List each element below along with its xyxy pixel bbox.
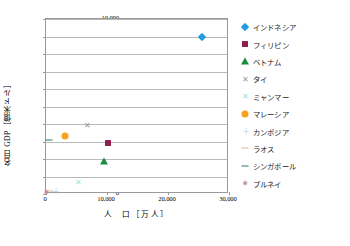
legend-label: シンガポール (253, 160, 296, 171)
y-tickmark (43, 142, 46, 143)
legend-item[interactable]: ラオス (240, 140, 348, 157)
data-point-marker (241, 58, 249, 65)
legend-item[interactable]: ＋カンボジア (240, 122, 348, 139)
legend-marker: ✷ (240, 178, 250, 188)
data-point-marker (242, 41, 248, 47)
x-tick-label: 20,000 (158, 196, 176, 203)
data-point-cross: ✕ (75, 179, 82, 186)
legend-marker: ＋ (240, 126, 250, 136)
legend-label: インドネシア (253, 21, 296, 32)
gridline (46, 72, 227, 73)
legend-marker (240, 143, 250, 153)
legend-label: カンボジア (253, 126, 289, 137)
gridline (46, 54, 227, 55)
data-point-star: ✷ (43, 188, 50, 195)
x-tickmark (107, 192, 108, 195)
gridline (46, 107, 227, 108)
data-point-square (105, 140, 111, 146)
y-tickmark (43, 54, 46, 55)
legend-item[interactable]: フィリピン (240, 35, 348, 52)
plot-area: ✕✕＋✷ (45, 18, 228, 193)
data-point-cross: ✕ (84, 121, 91, 128)
legend-label: ブルネイ (253, 178, 282, 189)
gridline (46, 142, 227, 143)
data-point-triangle (100, 157, 108, 164)
data-point-circle (62, 133, 69, 140)
gridline (46, 89, 227, 90)
legend-label: ラオス (253, 143, 274, 154)
legend-label: ミャンマー (253, 91, 289, 102)
data-point-marker: ✷ (242, 180, 249, 187)
legend-marker (240, 22, 250, 32)
legend-marker (240, 161, 250, 171)
x-tickmark (168, 192, 169, 195)
x-tick-label: 10,000 (97, 196, 115, 203)
legend-item[interactable]: ✕タイ (240, 70, 348, 87)
legend-marker (240, 39, 250, 49)
legend-item[interactable]: ✷ブルネイ (240, 175, 348, 192)
x-tickmark (229, 192, 230, 195)
x-axis-title: 人 口［万人］ (45, 208, 228, 219)
scatter-chart: 名目 GDP［億米ドル］ 人 口［万人］ 01,0002,0003,0004,0… (0, 0, 350, 246)
y-tickmark (43, 124, 46, 125)
legend-item[interactable]: ベトナム (240, 53, 348, 70)
data-point-marker (242, 148, 249, 149)
y-tickmark (43, 177, 46, 178)
y-tickmark (43, 72, 46, 73)
legend-item[interactable]: ✕ミャンマー (240, 88, 348, 105)
legend-item[interactable]: シンガポール (240, 157, 348, 174)
gridline (46, 159, 227, 160)
gridline (46, 19, 227, 20)
x-tick-label: 30,000 (219, 196, 237, 203)
y-tickmark (43, 89, 46, 90)
data-point-marker (242, 165, 249, 166)
legend-label: タイ (253, 73, 267, 84)
legend-label: マレーシア (253, 108, 289, 119)
gridline (46, 177, 227, 178)
y-tickmark (43, 107, 46, 108)
data-point-marker: ＋ (242, 128, 249, 135)
data-point-diamond (197, 33, 205, 41)
legend-marker (240, 56, 250, 66)
data-point-dash (46, 139, 53, 140)
x-tick-label: 0 (43, 196, 46, 203)
y-tickmark (43, 159, 46, 160)
legend-label: ベトナム (253, 56, 282, 67)
gridline (46, 124, 227, 125)
y-axis-title: 名目 GDP［億米ドル］ (2, 80, 13, 166)
data-point-marker (241, 22, 249, 30)
legend-label: フィリピン (253, 39, 289, 50)
legend-marker (240, 109, 250, 119)
data-point-marker: ✕ (242, 75, 249, 82)
data-point-marker (242, 110, 249, 117)
legend-item[interactable]: マレーシア (240, 105, 348, 122)
y-tickmark (43, 37, 46, 38)
legend-marker: ✕ (240, 74, 250, 84)
y-tickmark (43, 19, 46, 20)
legend-marker: ✕ (240, 91, 250, 101)
legend: インドネシアフィリピンベトナム✕タイ✕ミャンマーマレーシア＋カンボジアラオスシン… (240, 18, 348, 192)
legend-item[interactable]: インドネシア (240, 18, 348, 35)
data-point-marker: ✕ (242, 93, 249, 100)
